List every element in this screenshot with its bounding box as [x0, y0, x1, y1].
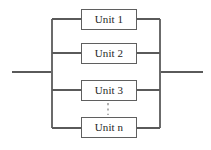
parallel-block-diagram: Unit 1 Unit 2 Unit 3 Unit n: [0, 0, 211, 150]
unit-block-label: Unit 1: [95, 14, 123, 25]
unit-block-n: Unit n: [81, 117, 137, 138]
unit-block-label: Unit n: [95, 122, 123, 133]
unit-block-3: Unit 3: [81, 80, 137, 101]
unit-block-1: Unit 1: [81, 9, 137, 30]
unit-block-2: Unit 2: [81, 43, 137, 64]
unit-block-label: Unit 3: [95, 85, 123, 96]
unit-block-label: Unit 2: [95, 48, 123, 59]
